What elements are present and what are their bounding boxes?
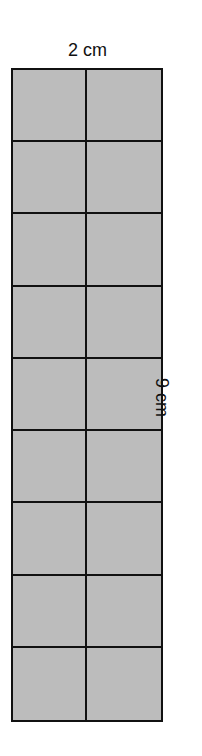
unit-square bbox=[13, 70, 87, 142]
unit-square bbox=[87, 70, 161, 142]
unit-square bbox=[13, 431, 87, 503]
unit-square bbox=[87, 576, 161, 648]
unit-square bbox=[87, 142, 161, 214]
unit-square bbox=[13, 214, 87, 286]
unit-square bbox=[13, 648, 87, 720]
unit-square bbox=[87, 648, 161, 720]
height-label: 9 cm bbox=[151, 378, 172, 417]
width-label: 2 cm bbox=[12, 40, 163, 61]
unit-square bbox=[87, 431, 161, 503]
unit-square bbox=[87, 214, 161, 286]
unit-square bbox=[13, 576, 87, 648]
unit-square bbox=[13, 287, 87, 359]
unit-square bbox=[87, 359, 161, 431]
unit-square bbox=[13, 359, 87, 431]
unit-square bbox=[13, 503, 87, 575]
unit-square bbox=[87, 503, 161, 575]
unit-square bbox=[87, 287, 161, 359]
unit-square bbox=[13, 142, 87, 214]
rectangle-grid bbox=[11, 68, 163, 722]
